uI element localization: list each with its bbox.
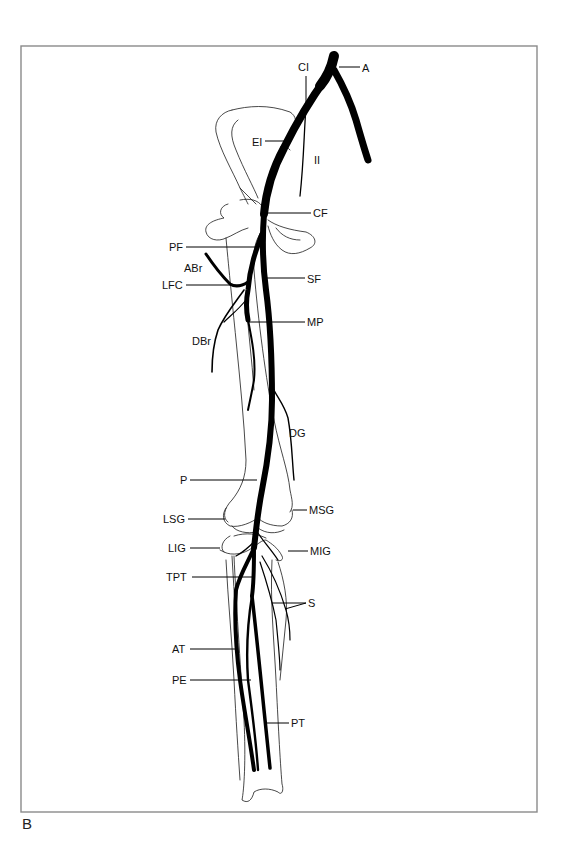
label-mig: MIG [288,545,331,557]
label-lig: LIG [168,542,220,554]
label-a: A [339,62,370,74]
label-text: P [180,474,187,486]
external-iliac [264,78,326,214]
leader-line [285,603,306,609]
label-cf: CF [267,207,328,219]
sural-arteries [260,556,290,670]
label-abr: ABr [184,262,203,274]
label-text: EI [252,136,262,148]
femoral-head-outline [206,199,262,240]
arterial-tree [206,56,368,770]
label-ii: II [314,154,320,166]
label-text: CI [298,61,309,73]
label-s: S [272,597,315,609]
femur-outline [225,230,293,522]
label-text: SF [307,273,321,285]
label-msg: MSG [293,504,334,516]
label-text: PT [291,717,305,729]
label-at: AT [172,643,235,655]
label-text: AT [172,643,186,655]
label-pf: PF [169,241,256,253]
label-text: PE [172,674,187,686]
label-dbr: DBr [192,335,211,347]
label-text: LFC [162,279,183,291]
label-text: LIG [168,542,186,554]
label-text: CF [313,207,328,219]
descending-branch [212,290,244,372]
label-text: MSG [309,504,334,516]
label-text: A [362,62,370,74]
label-text: S [308,597,315,609]
label-dg: DG [289,427,306,439]
right-common-iliac [334,70,368,160]
label-text: MP [307,316,324,328]
arterial-diagram: ACIEIIICFPFABrLFCSFMPDBrDGPLSGMSGLIGMIGT… [0,0,563,859]
label-text: LSG [163,513,185,525]
pubis-outline [268,220,315,254]
label-text: DBr [192,335,211,347]
tibioperoneal-trunk [252,548,254,596]
label-ci: CI [298,61,309,104]
superficial-femoral [254,214,272,548]
label-text: TPT [166,571,187,583]
label-lfc: LFC [162,279,241,291]
label-text: MIG [310,545,331,557]
label-sf: SF [266,273,321,285]
label-text: II [314,154,320,166]
label-pt: PT [267,717,305,729]
lateral-femoral-circumflex [206,254,248,286]
panel-letter: B [22,815,32,832]
label-text: DG [289,427,306,439]
label-layer: ACIEIIICFPFABrLFCSFMPDBrDGPLSGMSGLIGMIGT… [162,61,370,729]
label-p: P [180,474,257,486]
label-lsg: LSG [163,513,225,525]
label-text: PF [169,241,183,253]
label-text: ABr [184,262,203,274]
